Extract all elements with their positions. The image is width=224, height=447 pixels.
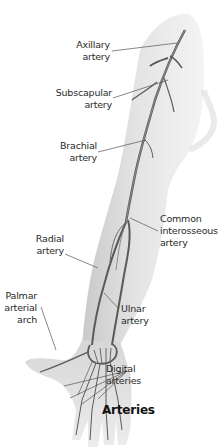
diagram-title: Arteries <box>102 403 155 417</box>
label-common-interosseous-artery: Common interosseous artery <box>160 213 224 249</box>
label-palmar-arterial-arch: Palmar arterial arch <box>0 290 37 326</box>
label-subscapular-artery: Subscapular artery <box>40 87 112 111</box>
label-axillary-artery: Axillary artery <box>60 39 110 63</box>
label-ulnar-artery: Ulnar artery <box>121 303 171 327</box>
label-brachial-artery: Brachial artery <box>40 140 97 164</box>
label-radial-artery: Radial artery <box>20 233 64 257</box>
label-digital-arteries: Digital arteries <box>106 363 166 387</box>
